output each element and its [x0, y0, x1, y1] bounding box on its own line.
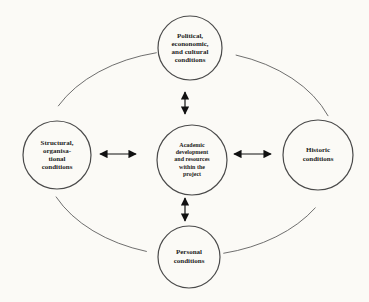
outer-arc-bottom-right	[223, 208, 315, 254]
node-historic-circle	[283, 120, 353, 190]
diagram-canvas: Political, econonomic, and cultural cond…	[0, 0, 369, 302]
node-personal-circle	[158, 226, 220, 288]
node-political-circle	[158, 16, 222, 80]
diagram-svg	[0, 0, 369, 302]
outer-arc-top-left	[58, 53, 157, 106]
outer-arc-bottom-left	[56, 197, 147, 252]
outer-arc-top-right	[236, 55, 329, 116]
node-structural-circle	[23, 121, 91, 189]
node-academic-circle	[157, 125, 227, 195]
